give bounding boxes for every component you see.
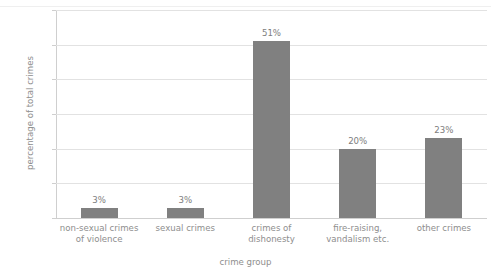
- gridline: [56, 10, 487, 11]
- y-axis-title: percentage of total crimes: [25, 18, 35, 208]
- bar: [167, 208, 204, 218]
- category-label-line: fire-raising,: [315, 223, 401, 234]
- y-axis-tick: [52, 149, 56, 150]
- bar-value-label: 3%: [69, 195, 129, 205]
- x-axis-category-label: other crimes: [401, 223, 487, 234]
- category-label-line: dishonesty: [228, 234, 314, 245]
- category-label-line: other crimes: [401, 223, 487, 234]
- x-axis-title: crime group: [0, 257, 491, 267]
- bar-value-label: 23%: [414, 125, 474, 135]
- bar-value-label: 3%: [155, 195, 215, 205]
- y-axis-tick: [52, 218, 56, 219]
- bar-chart: percentage of total crimes 3%3%51%20%23%…: [0, 0, 491, 279]
- bar: [425, 138, 462, 218]
- x-axis-category-label: fire-raising,vandalism etc.: [315, 223, 401, 244]
- bar-value-label: 20%: [328, 136, 388, 146]
- y-axis-tick: [52, 183, 56, 184]
- category-label-line: vandalism etc.: [315, 234, 401, 245]
- x-axis-line: [56, 218, 487, 219]
- category-label-line: crimes of: [228, 223, 314, 234]
- bar: [253, 41, 290, 218]
- bar: [81, 208, 118, 218]
- y-axis-tick: [52, 114, 56, 115]
- x-axis-category-label: crimes ofdishonesty: [228, 223, 314, 244]
- category-label-line: sexual crimes: [142, 223, 228, 234]
- title-divider: [0, 6, 491, 7]
- y-axis-tick: [52, 45, 56, 46]
- bar: [339, 149, 376, 218]
- bar-value-label: 51%: [242, 28, 302, 38]
- y-axis-tick: [52, 10, 56, 11]
- x-axis-category-label: sexual crimes: [142, 223, 228, 234]
- x-axis-category-label: non-sexual crimesof violence: [56, 223, 142, 244]
- category-label-line: of violence: [56, 234, 142, 245]
- plot-area: 3%3%51%20%23%: [56, 10, 487, 218]
- category-label-line: non-sexual crimes: [56, 223, 142, 234]
- y-axis-tick: [52, 79, 56, 80]
